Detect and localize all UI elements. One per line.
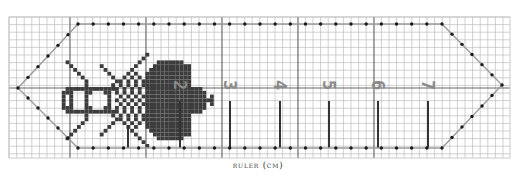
numeral-5: 5 xyxy=(319,80,339,90)
ruler-numerals: 234567 xyxy=(170,80,438,90)
numeral-7: 7 xyxy=(418,80,438,90)
ruler-bookmark-chart: 234567 xyxy=(0,0,516,178)
ruler-caption: ruler (cm) xyxy=(0,160,516,170)
bee-motif xyxy=(62,53,214,148)
numeral-6: 6 xyxy=(368,80,388,90)
numeral-3: 3 xyxy=(220,80,240,90)
numeral-2: 2 xyxy=(170,80,190,90)
numeral-4: 4 xyxy=(270,80,290,90)
